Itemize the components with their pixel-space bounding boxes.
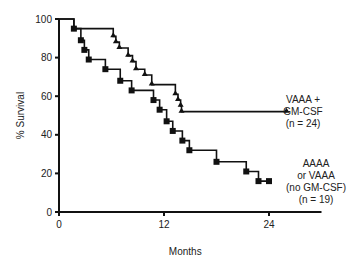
legend-gm-line-1: VAAA + xyxy=(268,94,338,106)
legend-nogm-line-1: AAAA xyxy=(280,158,352,170)
triangle-marker xyxy=(113,38,119,43)
curves xyxy=(59,19,290,184)
square-marker xyxy=(102,66,108,72)
x-axis-label: Months xyxy=(169,246,202,257)
triangle-marker xyxy=(130,57,136,62)
triangle-marker xyxy=(178,102,184,107)
square-marker xyxy=(243,168,249,174)
triangle-marker xyxy=(116,44,122,49)
x-tick-label: 24 xyxy=(263,219,275,230)
square-marker xyxy=(151,97,157,103)
y-tick-label: 20 xyxy=(41,168,53,179)
legend-nogm-line-4: (n = 19) xyxy=(280,194,352,206)
square-marker xyxy=(71,26,77,32)
survival-curve-no-gm-csf xyxy=(59,19,269,181)
legend-gm-line-3: (n = 24) xyxy=(268,118,338,130)
square-marker xyxy=(179,138,185,144)
triangle-marker xyxy=(172,90,178,95)
square-marker xyxy=(78,37,84,43)
survival-chart: 02040608010001224Months% Survival xyxy=(0,0,352,269)
triangle-marker xyxy=(149,81,155,86)
square-marker xyxy=(186,147,192,153)
legend-gm-line-2: GM-CSF xyxy=(268,106,338,118)
y-tick-label: 100 xyxy=(35,14,52,25)
square-marker xyxy=(266,178,272,184)
x-tick-label: 0 xyxy=(56,219,62,230)
square-marker xyxy=(117,78,123,84)
legend-nogm-line-3: (no GM-CSF) xyxy=(280,182,352,194)
legend-gm-csf: VAAA + GM-CSF (n = 24) xyxy=(268,94,338,130)
square-marker xyxy=(256,178,262,184)
legend-nogm-line-2: or VAAA xyxy=(280,170,352,182)
triangle-marker xyxy=(125,52,131,57)
square-marker xyxy=(157,107,163,113)
survival-curve-gm-csf xyxy=(59,19,287,112)
x-tick-label: 12 xyxy=(158,219,170,230)
triangle-marker xyxy=(133,65,139,70)
y-tick-label: 60 xyxy=(41,91,53,102)
y-tick-label: 40 xyxy=(41,129,53,140)
triangle-marker xyxy=(142,71,148,76)
square-marker xyxy=(86,57,92,63)
square-marker xyxy=(170,128,176,134)
y-axis-label: % Survival xyxy=(15,92,26,139)
triangle-marker xyxy=(179,108,185,113)
axes: 02040608010001224Months% Survival xyxy=(15,14,322,258)
y-tick-label: 80 xyxy=(41,52,53,63)
y-tick-label: 0 xyxy=(46,207,52,218)
square-marker xyxy=(214,159,220,165)
square-marker xyxy=(129,87,135,93)
legend-no-gm-csf: AAAA or VAAA (no GM-CSF) (n = 19) xyxy=(280,158,352,206)
square-marker xyxy=(164,118,170,124)
square-marker xyxy=(81,47,87,53)
triangle-marker xyxy=(110,32,116,37)
triangle-marker xyxy=(175,96,181,101)
